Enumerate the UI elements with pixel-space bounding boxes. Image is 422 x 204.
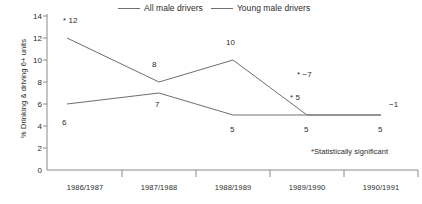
- point-label-young-1986: * 12: [63, 16, 78, 25]
- x-tick-label-1987-1988: 1987/1988: [141, 183, 177, 192]
- series-line-all-male-drivers: [67, 93, 381, 115]
- series-line-young-male-drivers: [67, 38, 381, 115]
- plot-area: [0, 0, 422, 204]
- change-label-young-male-drivers: * −7: [297, 70, 312, 79]
- x-axis-ticks: [122, 170, 418, 177]
- x-tick-label-1990-1991: 1990/1991: [363, 183, 399, 192]
- line-chart: All male drivers Young male drivers % Dr…: [0, 0, 422, 204]
- x-tick-label-1988-1989: 1988/1989: [215, 183, 251, 192]
- point-label-all-1989: 5: [304, 125, 309, 134]
- point-label-young-1989: * 5: [290, 93, 300, 102]
- change-label-all-male-drivers: −1: [389, 100, 398, 109]
- footnote-statistically-significant: *Statistically significant: [311, 147, 388, 156]
- x-tick-label-1986-1987: 1986/1987: [67, 183, 103, 192]
- point-label-all-1986: 6: [62, 118, 67, 127]
- y-axis-ticks: [43, 16, 47, 148]
- point-label-all-1990: 5: [378, 125, 383, 134]
- point-label-young-1987: 8: [152, 60, 157, 69]
- point-label-all-1988: 5: [230, 125, 235, 134]
- point-label-all-1987: 7: [155, 100, 160, 109]
- x-tick-label-1989-1990: 1989/1990: [289, 183, 325, 192]
- point-label-young-1988: 10: [226, 38, 235, 47]
